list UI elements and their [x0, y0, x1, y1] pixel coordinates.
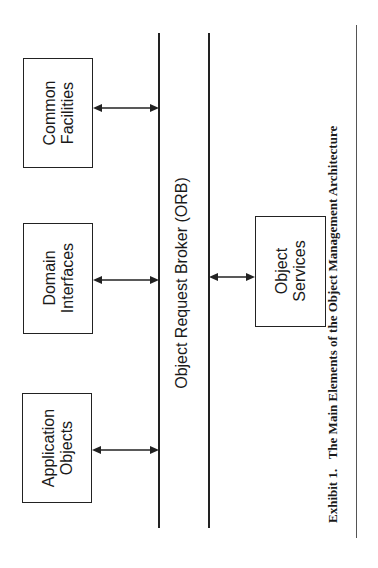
domain-interfaces-label: Domain Interfaces	[41, 223, 77, 333]
caption-rule	[356, 25, 357, 538]
common-facilities-box: Common Facilities	[23, 58, 93, 168]
caption-label: Exhibit 1.	[325, 469, 340, 523]
object-services-box: Object Services	[255, 216, 326, 327]
common-facilities-label: Common Facilities	[41, 58, 77, 168]
box-label-line: Interfaces	[59, 223, 77, 333]
double-arrow-icon	[209, 271, 255, 283]
box-label-line: Domain	[41, 223, 59, 333]
box-label-line: Services	[291, 216, 309, 326]
double-arrow-icon	[93, 274, 159, 286]
domain-interfaces-box: Domain Interfaces	[23, 223, 93, 334]
box-label-line: Object	[273, 216, 291, 326]
double-arrow-icon	[93, 102, 159, 114]
figure-caption: Exhibit 1. The Main Elements of the Obje…	[325, 43, 343, 523]
box-label-line: Objects	[58, 393, 76, 503]
box-label-line: Application	[40, 393, 58, 503]
application-objects-label: Application Objects	[40, 393, 76, 503]
orb-label: Object Request Broker (ORB)	[173, 133, 193, 433]
application-objects-box: Application Objects	[22, 393, 92, 503]
box-label-line: Facilities	[59, 58, 77, 168]
caption-title: The Main Elements of the Object Manageme…	[325, 126, 340, 459]
box-label-line: Common	[41, 58, 59, 168]
object-services-label: Object Services	[273, 216, 309, 326]
double-arrow-icon	[92, 444, 159, 456]
